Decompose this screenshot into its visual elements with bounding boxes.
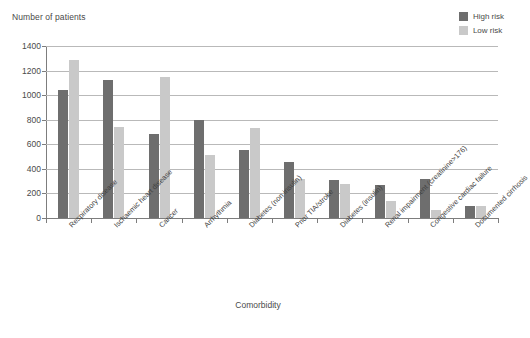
y-tick-label: 800 (27, 115, 41, 125)
bar (69, 60, 79, 218)
y-tick-label: 1200 (22, 66, 41, 76)
y-axis-title: Number of patients (12, 12, 86, 22)
y-tick-label: 200 (27, 188, 41, 198)
y-tick-label: 600 (27, 139, 41, 149)
bar (194, 120, 204, 218)
x-axis-labels: Respiratory diseaseIschaemic heart disea… (46, 223, 498, 303)
legend-item-high-risk: High risk (459, 12, 504, 21)
bar-groups (46, 46, 498, 218)
bar (160, 77, 170, 218)
bar (239, 150, 249, 218)
y-tick-label: 1400 (22, 41, 41, 51)
bar (465, 206, 475, 218)
bar-group (227, 46, 272, 218)
bar (205, 155, 215, 218)
x-tick-mark (498, 218, 499, 223)
bar-group (182, 46, 227, 218)
bar (250, 128, 260, 218)
bar (329, 180, 339, 218)
legend-label-high-risk: High risk (473, 12, 504, 21)
legend-swatch-low-risk (459, 26, 468, 35)
legend-label-low-risk: Low risk (473, 26, 502, 35)
bar (149, 134, 159, 218)
bar (114, 127, 124, 218)
legend-swatch-high-risk (459, 12, 468, 21)
chart-legend: High risk Low risk (459, 12, 504, 35)
bar-group (46, 46, 91, 218)
bar (58, 90, 68, 218)
y-tick-label: 0 (36, 213, 41, 223)
x-axis-title: Comorbidity (0, 300, 516, 310)
y-tick-label: 400 (27, 164, 41, 174)
y-tick-label: 1000 (22, 90, 41, 100)
legend-item-low-risk: Low risk (459, 26, 504, 35)
plot-area: 0200400600800100012001400 (46, 46, 498, 218)
